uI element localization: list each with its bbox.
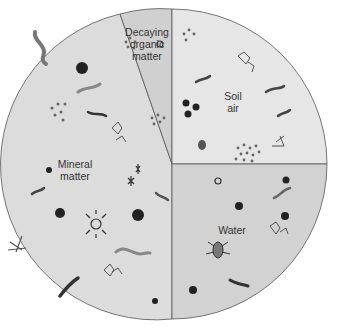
sector-water bbox=[172, 164, 327, 319]
sector-soil-air bbox=[172, 9, 327, 164]
label-decaying-organic-matter: Decaying organic matter bbox=[122, 26, 172, 62]
earthworm-icon bbox=[35, 32, 46, 64]
soil-air-mite-icon bbox=[198, 140, 206, 150]
label-water: Water bbox=[214, 224, 250, 236]
label-mineral-matter: Mineral matter bbox=[48, 158, 102, 182]
label-soil-air: Soil air bbox=[218, 90, 248, 114]
